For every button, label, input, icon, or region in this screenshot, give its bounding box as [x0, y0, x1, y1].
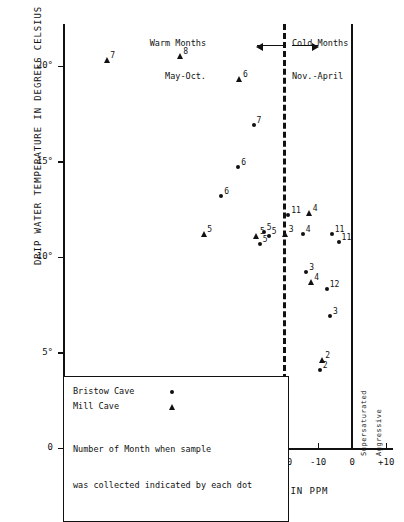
x-tick — [386, 443, 388, 448]
legend-label-mill: Mill Cave — [73, 399, 161, 414]
cold-months-annotation: Cold Months Nov.-April — [292, 16, 348, 104]
x-tick-label: +10 — [366, 457, 404, 467]
zero-aggressivity-line — [351, 24, 353, 448]
mill-triangle-icon — [306, 210, 312, 216]
x-tick — [318, 443, 320, 448]
bristow-dot-icon — [258, 242, 262, 246]
legend-note: Number of Month when sample was collecte… — [73, 419, 279, 515]
supersaturated-caption: Supersaturated — [360, 390, 368, 456]
mill-triangle-icon — [104, 57, 110, 63]
mill-triangle-icon — [308, 279, 314, 285]
aggressive-caption: Aggressive — [375, 409, 383, 456]
data-point-month-label: 3 — [333, 307, 338, 316]
data-point-month-label: 3 — [289, 225, 294, 234]
data-point-month-label: 7 — [257, 116, 262, 125]
y-tick-label: 0 — [19, 442, 53, 452]
bristow-dot-icon — [286, 213, 290, 217]
cold-arrow-icon — [292, 45, 318, 46]
legend-label-bristow: Bristow Cave — [73, 384, 161, 399]
mill-triangle-icon — [253, 233, 259, 239]
data-point-month-label: 12 — [330, 280, 340, 289]
data-point-month-label: 5 — [267, 223, 272, 232]
mill-triangle-icon — [236, 76, 242, 82]
bristow-dot-icon — [328, 314, 332, 318]
y-tick-label: 5° — [19, 347, 53, 357]
legend-item-bristow: Bristow Cave — [73, 384, 279, 399]
y-tick — [58, 66, 63, 68]
data-point-month-label: 5 — [272, 227, 277, 236]
bristow-dot-icon — [330, 232, 334, 236]
data-point-month-label: 2 — [325, 351, 330, 360]
season-divider-line — [283, 24, 286, 380]
legend-item-mill: Mill Cave — [73, 399, 279, 414]
y-tick-label: 15° — [19, 156, 53, 166]
bristow-dot-icon — [337, 240, 341, 244]
y-tick-label: 20° — [19, 60, 53, 70]
data-point-month-label: 6 — [243, 70, 248, 79]
data-point-month-label: 11 — [291, 206, 301, 215]
data-point-month-label: 4 — [313, 204, 318, 213]
y-tick-label: 10° — [19, 251, 53, 261]
mill-triangle-icon — [201, 231, 207, 237]
legend-dot-icon — [161, 387, 183, 397]
bristow-dot-icon — [304, 270, 308, 274]
data-point-month-label: 6 — [224, 187, 229, 196]
warm-months-annotation: Warm Months May-Oct. — [150, 16, 206, 104]
data-point-month-label: 5 — [260, 227, 265, 236]
bristow-dot-icon — [219, 194, 223, 198]
legend: Bristow Cave Mill Cave Number of Month w… — [63, 376, 289, 522]
legend-triangle-icon — [161, 402, 183, 412]
data-point-month-label: 3 — [309, 263, 314, 272]
bristow-dot-icon — [267, 234, 271, 238]
data-point-month-label: 4 — [306, 225, 311, 234]
warm-arrow-icon — [257, 45, 283, 46]
data-point-month-label: 11 — [342, 233, 352, 242]
data-point-month-label: 6 — [241, 158, 246, 167]
y-tick — [58, 352, 63, 354]
data-point-month-label: 7 — [110, 51, 115, 60]
bristow-dot-icon — [252, 123, 256, 127]
bristow-dot-icon — [318, 368, 322, 372]
data-point-month-label: 4 — [314, 273, 319, 282]
bristow-dot-icon — [236, 165, 240, 169]
bristow-dot-icon — [325, 287, 329, 291]
data-point-month-label: 5 — [207, 225, 212, 234]
mill-triangle-icon — [319, 357, 325, 363]
bristow-dot-icon — [301, 232, 305, 236]
y-tick — [58, 161, 63, 163]
y-tick — [58, 257, 63, 259]
